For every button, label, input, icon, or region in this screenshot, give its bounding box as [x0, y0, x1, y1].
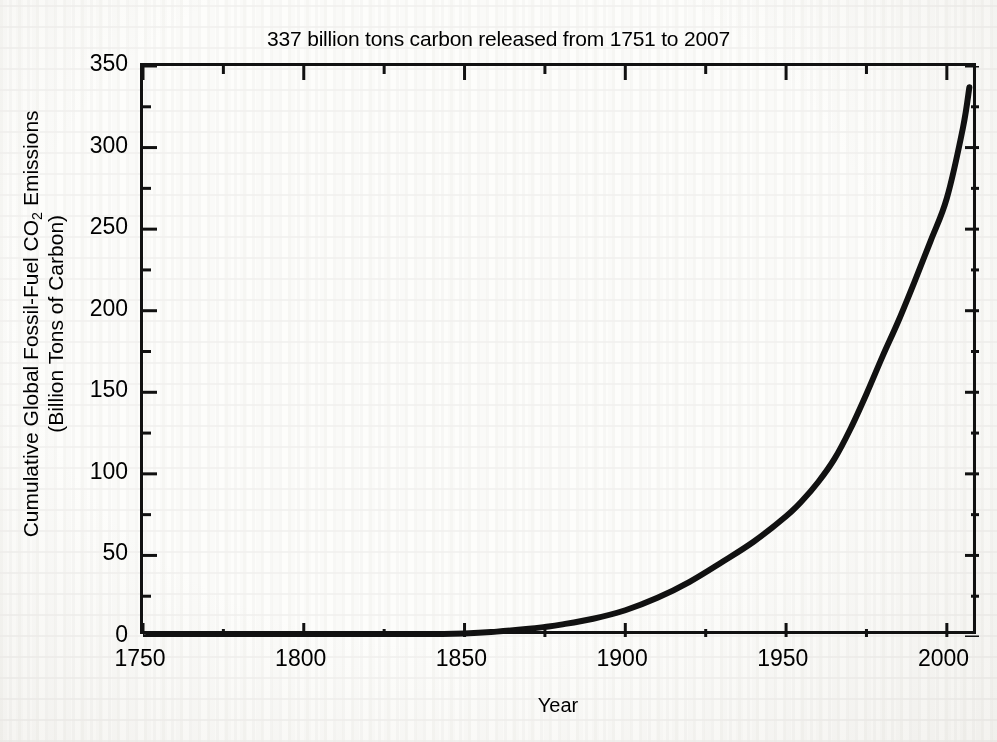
y-tick-label: 250	[90, 213, 128, 240]
x-axis-title: Year	[140, 694, 976, 717]
y-axis-title-line1: Cumulative Global Fossil-Fuel CO2 Emissi…	[19, 110, 42, 537]
plot-frame	[140, 63, 976, 634]
chart-title: 337 billion tons carbon released from 17…	[0, 27, 997, 51]
y-tick-label: 0	[115, 621, 128, 648]
y-tick-label: 200	[90, 294, 128, 321]
x-tick-label: 1750	[114, 645, 165, 672]
y-tick-label: 350	[90, 50, 128, 77]
data-series-line	[146, 87, 969, 637]
y-axis-title-line2: (Billion Tons of Carbon)	[45, 0, 67, 654]
x-tick-label: 2000	[918, 645, 969, 672]
y-tick-label: 50	[102, 539, 128, 566]
x-tick-label: 1850	[436, 645, 487, 672]
x-tick-label: 1950	[757, 645, 808, 672]
y-tick-label: 300	[90, 131, 128, 158]
x-tick-label: 1900	[597, 645, 648, 672]
y-tick-label: 150	[90, 376, 128, 403]
y-axis-title: Cumulative Global Fossil-Fuel CO2 Emissi…	[20, 0, 68, 654]
chart-figure: 337 billion tons carbon released from 17…	[0, 0, 997, 742]
y-tick-label: 100	[90, 457, 128, 484]
subscript-two: 2	[29, 212, 45, 220]
plot-area	[143, 66, 979, 637]
x-tick-label: 1800	[275, 645, 326, 672]
axis-ticks	[143, 66, 979, 637]
